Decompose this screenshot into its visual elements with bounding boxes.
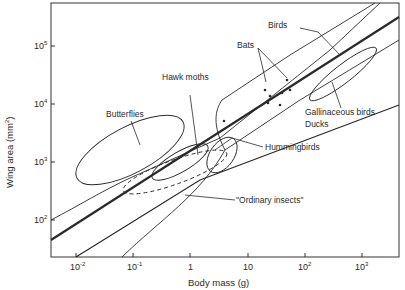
y-tick-1e2: 102 [34,214,48,225]
x-axis [76,253,362,257]
label-ordinary-insects: "Ordinary insects" [236,195,303,205]
label-butterflies: Butterflies [106,109,144,119]
x-tick-labels: 10-2 10-1 1 10 102 103 [70,261,369,272]
isometric-line [51,17,399,240]
label-hummingbirds: Hummingbirds [265,142,320,152]
ordinary-insects-lower-line [122,150,225,257]
bats-leader [258,48,287,82]
y-axis [51,46,55,220]
label-hawk-moths: Hawk moths [162,72,209,82]
label-ducks: Ducks [305,119,329,129]
ordinary-insects-region [119,142,231,202]
birds-band-upper [222,3,375,100]
birds-leader [300,28,340,55]
x-tick-1e2: 102 [298,261,312,272]
x-axis-label: Body mass (g) [188,277,249,288]
annotations: Birds Bats Hawk moths Butterflies Gallin… [106,20,375,205]
wing-area-vs-body-mass-chart: 105 104 103 102 10-2 10-1 1 10 102 103 B… [0,0,405,290]
plot-content [51,3,399,257]
x-tick-1e-1: 10-1 [127,261,143,272]
x-tick-1: 1 [188,262,193,272]
x-tick-1e-2: 10-2 [70,261,86,272]
plot-frame [51,3,399,257]
label-bats: Bats [237,40,254,50]
x-tick-10: 10 [243,262,253,272]
y-tick-1e4: 104 [34,98,48,109]
y-tick-1e5: 105 [34,40,48,51]
ordinary-insects-leader [185,195,235,200]
birds-band-lower [225,40,399,150]
y-axis-label: Wing area (mm2) [4,117,15,188]
y-tick-labels: 105 104 103 102 [34,40,48,225]
bats-points [223,79,292,123]
x-tick-1e3: 103 [355,261,369,272]
gallinaceous-leader [332,82,341,108]
butterflies-leader [131,121,140,145]
label-gallinaceous-birds: Gallinaceous birds [305,107,375,117]
label-birds: Birds [268,20,287,30]
y-tick-1e3: 103 [34,156,48,167]
